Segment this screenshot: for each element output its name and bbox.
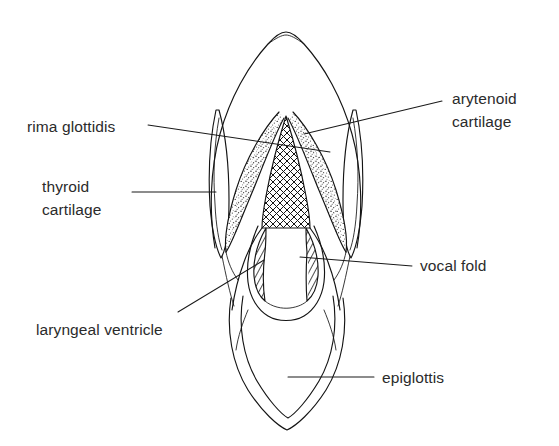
anatomy-figure: rima glottidis thyroid cartilage larynge…	[0, 0, 559, 446]
label-thyroid-cartilage-line2: cartilage	[42, 201, 102, 218]
label-arytenoid-cartilage-line1: arytenoid	[452, 90, 517, 107]
label-laryngeal-ventricle: laryngeal ventricle	[36, 321, 163, 338]
label-rima-glottidis: rima glottidis	[27, 118, 116, 135]
larynx-diagram: rima glottidis thyroid cartilage larynge…	[0, 0, 559, 446]
label-vocal-fold: vocal fold	[420, 257, 486, 274]
label-epiglottis: epiglottis	[382, 369, 444, 386]
label-thyroid-cartilage-line1: thyroid	[42, 178, 89, 195]
label-arytenoid-cartilage-line2: cartilage	[452, 113, 512, 130]
